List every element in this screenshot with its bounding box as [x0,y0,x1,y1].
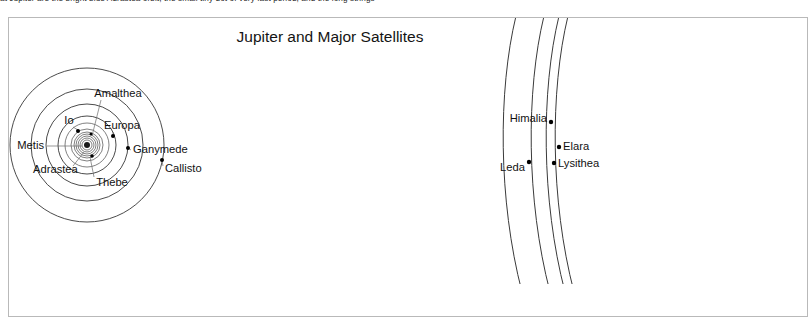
moon-dot-ganymede [126,146,130,150]
label-metis: Metis [17,139,44,151]
moon-dot-himalia [549,120,553,124]
label-thebe: Thebe [96,176,128,188]
moon-dot-europa [111,134,115,138]
moon-dot-callisto [160,158,164,162]
orbit-arc-leda [503,16,522,284]
diagram-content: Metis Adrastea Amalthea Thebe Io Europa … [10,16,600,284]
label-himalia: Himalia [510,112,548,124]
label-europa: Europa [104,119,141,131]
figure-title: Jupiter and Major Satellites [237,28,424,45]
label-lysithea: Lysithea [558,157,600,169]
label-adrastea: Adrastea [33,163,79,175]
moon-dot-lysithea [552,161,556,165]
label-elara: Elara [563,140,590,152]
moon-dot-elara [557,145,561,149]
label-io: Io [64,114,73,126]
label-ganymede: Ganymede [133,143,188,155]
jupiter-body [84,142,90,148]
label-callisto: Callisto [165,162,202,174]
label-leda: Leda [500,161,526,173]
orbit-arc-himalia [531,16,550,284]
inner-moon-labels: Metis Adrastea Amalthea Thebe Io Europa … [17,87,201,188]
moon-dot-amalthea [90,133,93,136]
moon-dot-leda [527,160,531,164]
moon-dot-thebe [90,154,94,158]
label-amalthea: Amalthea [94,87,142,99]
moon-dot-io [76,129,80,133]
